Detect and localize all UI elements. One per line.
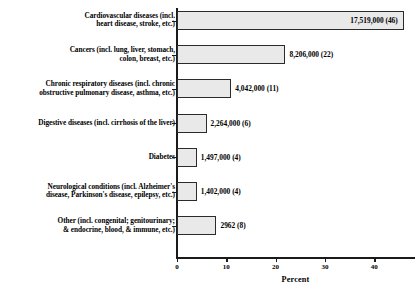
- category-label: Chronic respiratory diseases (incl. chro…: [3, 80, 175, 97]
- bar: [177, 182, 197, 201]
- x-axis-tick-label: 0: [162, 263, 192, 271]
- bar-row: Cardiovascular diseases (incl.heart dise…: [0, 11, 418, 45]
- category-label-line: heart disease, stroke, etc.): [3, 20, 175, 29]
- category-label: Neurological conditions (incl. Alzheimer…: [3, 183, 175, 200]
- x-axis-tick: [226, 257, 227, 262]
- category-label: Other (incl. congenital; genitourinary;&…: [3, 217, 175, 234]
- bar-row: Diabetes1,497,000 (4): [0, 148, 418, 182]
- x-axis-tick-label: 20: [261, 263, 291, 271]
- bar-row: Chronic respiratory diseases (incl. chro…: [0, 79, 418, 113]
- x-axis-tick: [325, 257, 326, 262]
- category-label-line: obstructive pulmonary disease, asthma, e…: [3, 89, 175, 98]
- bar-row: Digestive diseases (incl. cirrhosis of t…: [0, 114, 418, 148]
- plot-area: Cardiovascular diseases (incl.heart dise…: [0, 0, 418, 291]
- bar-row: Other (incl. congenital; genitourinary;&…: [0, 216, 418, 250]
- category-label: Digestive diseases (incl. cirrhosis of t…: [3, 119, 175, 128]
- bar-value-label: 1,497,000 (4): [201, 148, 241, 167]
- bar-value-label: 17,519,000 (46): [177, 11, 398, 30]
- x-axis-tick-label: 30: [310, 263, 340, 271]
- bar-value-label: 8,206,000 (22): [289, 45, 333, 64]
- category-label: Diabetes: [3, 153, 175, 162]
- bar: [177, 148, 197, 167]
- x-axis-title: Percent: [176, 275, 415, 284]
- category-label: Cardiovascular diseases (incl.heart dise…: [3, 12, 175, 29]
- x-axis-tick-label: 40: [359, 263, 389, 271]
- bar-row: Neurological conditions (incl. Alzheimer…: [0, 182, 418, 216]
- bar-value-label: 4,042,000 (11): [235, 79, 278, 98]
- x-axis-tick: [374, 257, 375, 262]
- category-label-line: colon, breast, etc.): [3, 55, 175, 64]
- category-label-line: Digestive diseases (incl. cirrhosis of t…: [3, 119, 175, 128]
- bar-row: Cancers (incl. lung, liver, stomach,colo…: [0, 45, 418, 79]
- x-axis-tick: [177, 257, 178, 262]
- bar-value-label: 2962 (8): [220, 216, 245, 235]
- category-label-line: & endocrine, blood, & immune, etc.): [3, 226, 175, 235]
- category-label-line: disease, Parkinson's disease, epilepsy, …: [3, 191, 175, 200]
- bar: [177, 216, 216, 235]
- bar: [177, 79, 231, 98]
- bar-value-label: 1,402,000 (4): [201, 182, 241, 201]
- x-axis-line: [176, 257, 415, 259]
- bar: [177, 45, 285, 64]
- x-axis-tick-label: 10: [211, 263, 241, 271]
- category-label-line: Diabetes: [3, 153, 175, 162]
- category-label: Cancers (incl. lung, liver, stomach,colo…: [3, 46, 175, 63]
- bar: [177, 114, 207, 133]
- x-axis-tick: [276, 257, 277, 262]
- bar-value-label: 2,264,000 (6): [211, 114, 251, 133]
- bar-chart: Cardiovascular diseases (incl.heart dise…: [0, 0, 418, 291]
